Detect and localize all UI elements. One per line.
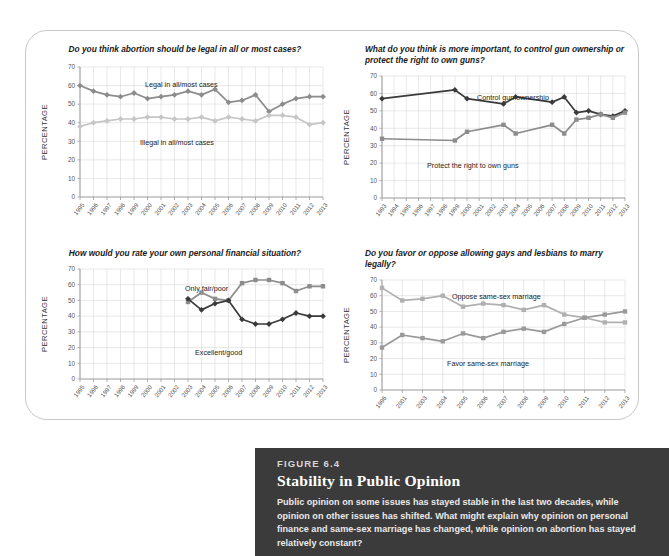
data-point-marker (158, 94, 164, 100)
data-point-marker (293, 96, 299, 102)
data-point-marker (293, 310, 299, 316)
data-point-marker (280, 281, 284, 285)
y-axis-tick-label: 20 (68, 156, 76, 163)
y-axis-tick-label: 70 (68, 265, 76, 272)
y-axis-tick-label: 50 (68, 297, 76, 304)
data-point-marker (574, 117, 578, 121)
data-point-marker (307, 94, 313, 100)
data-point-marker (91, 120, 97, 126)
data-point-marker (77, 124, 83, 130)
data-point-marker (226, 114, 232, 120)
data-point-marker (199, 114, 205, 120)
data-point-marker (513, 131, 517, 135)
plot-area-guns: 0102030405060701993199419951996199719981… (337, 68, 637, 246)
data-point-marker (562, 312, 566, 316)
data-point-marker (501, 303, 505, 307)
data-point-marker (185, 116, 191, 122)
y-axis-tick-label: 20 (370, 355, 378, 362)
x-axis-tick-label: 2013 (315, 201, 329, 216)
data-point-marker (213, 297, 217, 301)
data-point-marker (542, 330, 546, 334)
x-axis-tick-label: 1999 (126, 383, 140, 398)
data-point-marker (611, 116, 615, 120)
x-axis-tick-label: 2005 (207, 383, 221, 398)
data-point-marker (212, 301, 218, 307)
x-axis-tick-label: 2010 (274, 201, 288, 216)
x-axis-tick-label: 2011 (577, 394, 591, 409)
data-point-marker (380, 286, 384, 290)
data-point-marker (453, 138, 457, 142)
x-axis-tick-label: 2010 (556, 394, 570, 409)
data-point-marker (599, 112, 603, 116)
data-point-marker (586, 116, 590, 120)
x-axis-tick-label: 2002 (166, 201, 180, 216)
data-point-marker (172, 92, 178, 98)
y-axis-tick-label: 60 (68, 281, 76, 288)
x-axis-tick-label: 2007 (234, 383, 248, 398)
data-point-marker (420, 336, 424, 340)
data-point-marker (461, 331, 465, 335)
x-axis-tick-label: 2005 (455, 394, 469, 409)
data-point-marker (307, 313, 313, 319)
x-axis-tick-label: 2008 (247, 383, 261, 398)
y-axis-label: PERCENTAGE (342, 109, 351, 165)
data-point-marker (542, 303, 546, 307)
figure-title: Stability in Public Opinion (277, 472, 653, 490)
data-point-marker (623, 309, 627, 313)
x-axis-tick-label: 2012 (301, 201, 315, 216)
x-axis-tick-label: 2010 (274, 383, 288, 398)
x-axis-tick-label: 2001 (153, 383, 167, 398)
x-axis-tick-label: 2000 (139, 201, 153, 216)
chart-panel-finance: How would you rate your own personal fin… (35, 248, 335, 428)
data-point-marker (145, 114, 151, 120)
x-axis-tick-label: 2003 (495, 202, 509, 217)
x-axis-tick-label: 2012 (301, 383, 315, 398)
data-point-marker (481, 336, 485, 340)
data-point-marker (379, 96, 385, 102)
data-point-marker (104, 92, 110, 98)
data-point-marker (400, 298, 404, 302)
x-axis-tick-label: 2012 (605, 202, 619, 217)
data-point-marker (280, 316, 286, 322)
data-point-marker (266, 112, 272, 118)
data-point-marker (623, 320, 627, 324)
x-axis-tick-label: 2012 (597, 394, 611, 409)
x-axis-tick-label: 2006 (532, 202, 546, 217)
data-point-marker (253, 321, 259, 327)
data-point-marker (320, 94, 326, 100)
chart-content: 0102030405060701995199619971998199920002… (40, 63, 329, 216)
chart-title-finance: How would you rate your own personal fin… (35, 248, 335, 259)
plot-area-abortion: 0102030405060701995199619971998199920002… (35, 57, 335, 245)
data-point-marker (91, 88, 97, 94)
x-axis-tick-label: 1998 (435, 202, 449, 217)
chart-panel-guns: What do you think is more important, to … (337, 44, 637, 249)
x-axis-tick-label: 1997 (99, 383, 113, 398)
chart-svg-abortion: 0102030405060701995199619971998199920002… (35, 57, 335, 245)
x-axis-tick-label: 1995 (398, 202, 412, 217)
data-point-marker (441, 339, 445, 343)
data-point-marker (320, 313, 326, 319)
y-axis-tick-label: 30 (370, 339, 378, 346)
data-point-marker (131, 116, 137, 122)
figure-caption-box: FIGURE 6.4 Stability in Public Opinion P… (255, 448, 669, 556)
x-axis-tick-label: 2008 (247, 201, 261, 216)
x-axis-tick-label: 2000 (459, 202, 473, 217)
y-axis-tick-label: 10 (370, 177, 378, 184)
x-axis-tick-label: 1994 (386, 202, 400, 217)
data-point-marker (320, 120, 326, 126)
y-axis-tick-label: 10 (68, 175, 76, 182)
y-axis-tick-label: 70 (68, 63, 76, 70)
data-point-marker (118, 116, 124, 122)
y-axis-tick-label: 50 (370, 107, 378, 114)
x-axis-tick-label: 2004 (193, 201, 207, 216)
x-axis-tick-label: 2004 (193, 383, 207, 398)
y-axis-tick-label: 40 (370, 125, 378, 132)
data-point-marker (420, 297, 424, 301)
x-axis-tick-label: 2011 (288, 383, 302, 398)
x-axis-tick-label: 2003 (414, 394, 428, 409)
x-axis-tick-label: 2003 (180, 201, 194, 216)
x-axis-tick-label: 2008 (516, 394, 530, 409)
series-annotation-0: Legal in all/most cases (145, 80, 218, 89)
y-axis-tick-label: 30 (370, 142, 378, 149)
y-axis-tick-label: 0 (71, 375, 75, 382)
